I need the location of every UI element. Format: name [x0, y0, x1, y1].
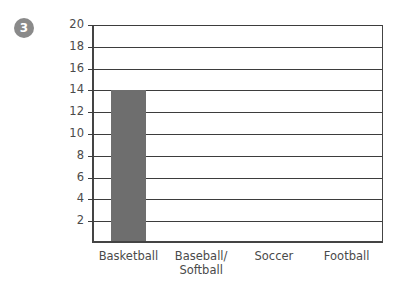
y-tick-12	[88, 112, 95, 113]
y-tick-8	[88, 156, 95, 157]
y-tick-label-12: 12	[58, 106, 84, 118]
y-tick-label-10: 10	[58, 128, 84, 140]
y-tick-label-20: 20	[58, 19, 84, 31]
y-tick-6	[88, 178, 95, 179]
y-tick-18	[88, 47, 95, 48]
y-tick-14	[88, 90, 95, 91]
y-tick-label-6: 6	[58, 172, 84, 184]
y-tick-10	[88, 134, 95, 135]
y-tick-label-14: 14	[58, 84, 84, 96]
y-tick-16	[88, 69, 95, 70]
x-label-soccer: Soccer	[238, 249, 311, 263]
y-tick-label-16: 16	[58, 63, 84, 75]
plot-area	[92, 25, 383, 243]
question-number-badge: 3	[14, 18, 34, 38]
x-label-basketball: Basketball	[92, 249, 165, 263]
y-tick-label-4: 4	[58, 193, 84, 205]
x-label-baseballsoftball: Baseball/ Softball	[165, 249, 238, 277]
plot-frame	[92, 25, 383, 243]
y-tick-2	[88, 221, 95, 222]
x-label-football: Football	[310, 249, 383, 263]
y-tick-label-8: 8	[58, 150, 84, 162]
y-tick-label-18: 18	[58, 41, 84, 53]
y-tick-20	[88, 25, 95, 26]
y-axis-tick-labels: 2018161412108642	[58, 25, 84, 243]
x-axis-category-labels: BasketballBaseball/ SoftballSoccerFootba…	[92, 249, 383, 288]
bar-chart-figure: 3 2018161412108642 BasketballBaseball/ S…	[0, 0, 394, 288]
y-tick-label-2: 2	[58, 215, 84, 227]
y-tick-4	[88, 199, 95, 200]
